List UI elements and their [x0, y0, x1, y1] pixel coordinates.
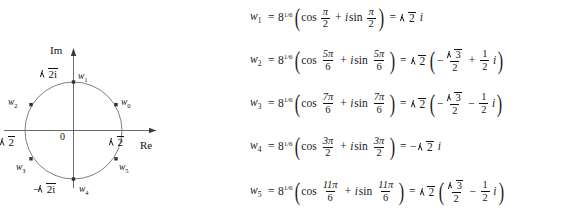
result-radical: 2: [412, 55, 426, 68]
plus-sign: +: [340, 55, 347, 67]
open-paren: (: [294, 8, 299, 28]
close-paren: ): [498, 51, 503, 71]
equals-sign: =: [268, 98, 275, 110]
sin-function: sin: [354, 55, 367, 67]
figure-page: Im Re 0 2i −2i 2 2 w0 w1 w2 w3: [0, 0, 561, 219]
real-part-numerator: 3: [447, 180, 465, 192]
equals-sign: =: [268, 186, 275, 198]
point-label-w5: w5: [119, 162, 129, 174]
result-imaginary-unit: i: [493, 186, 496, 198]
point-label-w1: w1: [78, 71, 88, 83]
equals-sign: =: [389, 12, 396, 24]
equation-lhs-w1: w1: [250, 11, 261, 25]
angle-fraction: 7π 6: [321, 92, 336, 115]
imag-part-fraction: 1 2: [481, 180, 490, 203]
exponent-value: 1/6: [284, 185, 293, 192]
real-axis-label: Re: [140, 139, 152, 151]
equals-sign: =: [268, 12, 275, 24]
imaginary-unit: i: [355, 186, 358, 198]
equation-row-w1: w1 = 81/6 ( cos π 2 + i sin π 2 ) = 2: [250, 0, 561, 38]
close-paren: ): [379, 8, 384, 28]
sin-function: sin: [354, 141, 367, 153]
angle-fraction: 5π 6: [372, 49, 387, 72]
equals-sign: =: [268, 141, 275, 153]
root-point-w2: [29, 103, 32, 106]
angle-fraction: 5π 6: [321, 49, 336, 72]
angle-fraction: π 2: [321, 7, 330, 30]
result-imaginary-unit: i: [438, 141, 441, 153]
close-paren: ): [389, 137, 394, 157]
tick-negative-imaginary: −2i: [33, 183, 56, 195]
imag-part-sign: +: [469, 55, 476, 67]
cos-function: cos: [301, 98, 316, 110]
equation-list: w1 = 81/6 ( cos π 2 + i sin π 2 ) = 2: [250, 0, 561, 219]
imaginary-axis-label: Im: [50, 44, 62, 56]
open-paren: (: [439, 182, 444, 202]
open-paren: (: [294, 94, 299, 114]
tick-positive-real: 2: [110, 136, 124, 148]
imaginary-axis-arrowhead: [71, 48, 76, 56]
real-part-fraction: 3 2: [446, 92, 464, 116]
imaginary-unit: i: [350, 98, 353, 110]
result-imaginary-unit: i: [420, 12, 423, 24]
plus-sign: +: [345, 186, 352, 198]
real-part-fraction: 3 2: [446, 49, 464, 73]
imaginary-unit: i: [345, 12, 348, 24]
exponent-value: 1/6: [284, 54, 293, 61]
real-part-sign: −: [437, 55, 444, 67]
cos-function: cos: [301, 186, 316, 198]
angle-fraction: 3π 2: [372, 136, 387, 159]
sin-function: sin: [354, 98, 367, 110]
result-radical: 2: [412, 98, 426, 111]
cos-function: cos: [301, 141, 316, 153]
point-label-w2: w2: [8, 97, 18, 109]
angle-fraction: 11π 6: [376, 180, 395, 203]
root-point-w4: [72, 177, 75, 180]
equation-lhs-w2: w2: [250, 54, 261, 68]
equation-lhs-w5: w5: [250, 185, 261, 199]
equals-sign: =: [400, 55, 407, 67]
result-radical: 2: [421, 186, 435, 199]
real-axis-arrowhead: [149, 128, 156, 133]
point-label-w4: w4: [79, 184, 89, 196]
root-point-w5: [114, 157, 117, 160]
close-paren: ): [389, 94, 394, 114]
cos-function: cos: [301, 55, 316, 67]
real-part-sign: −: [437, 98, 444, 110]
root-point-w1: [72, 80, 75, 83]
equation-row-w4: w4 = 81/6 ( cos 3π 2 + i sin 3π 2 ) = −: [250, 127, 561, 167]
point-label-w0: w0: [121, 97, 131, 109]
result-imaginary-unit: i: [492, 98, 495, 110]
imag-part-fraction: 1 2: [479, 92, 488, 115]
cos-function: cos: [301, 12, 316, 24]
angle-fraction: 11π 6: [321, 180, 340, 203]
equation-row-w3: w3 = 81/6 ( cos 7π 6 + i sin 7π 6 ) = 2: [250, 84, 561, 124]
close-paren: ): [498, 182, 503, 202]
angle-fraction: 3π 2: [321, 136, 336, 159]
imaginary-unit: i: [350, 55, 353, 67]
open-paren: (: [294, 51, 299, 71]
imag-part-fraction: 1 2: [480, 49, 489, 72]
imag-part-sign: −: [468, 98, 475, 110]
equals-sign: =: [409, 186, 416, 198]
result-radical: 2: [401, 12, 415, 25]
tick-negative-real: 2: [1, 136, 15, 148]
real-part-fraction: 3 2: [447, 180, 465, 204]
open-paren: (: [430, 51, 435, 71]
open-paren: (: [430, 94, 435, 114]
equation-lhs-w4: w4: [250, 140, 261, 154]
result-imaginary-unit: i: [493, 55, 496, 67]
root-point-w0: [114, 103, 117, 106]
close-paren: ): [389, 51, 394, 71]
imag-part-sign: −: [470, 186, 477, 198]
close-paren: ): [497, 94, 502, 114]
equation-lhs-w3: w3: [250, 97, 261, 111]
sin-function: sin: [349, 12, 362, 24]
argand-diagram: Im Re 0 2i −2i 2 2 w0 w1 w2 w3: [0, 0, 250, 219]
equation-row-w2: w2 = 81/6 ( cos 5π 6 + i sin 5π 6 ) = 2: [250, 41, 561, 81]
result-radical: 2: [419, 141, 433, 154]
equals-sign: =: [400, 98, 407, 110]
exponent-value: 1/6: [284, 12, 293, 19]
exponent-value: 1/6: [284, 97, 293, 104]
tick-positive-imaginary: 2i: [41, 68, 58, 80]
